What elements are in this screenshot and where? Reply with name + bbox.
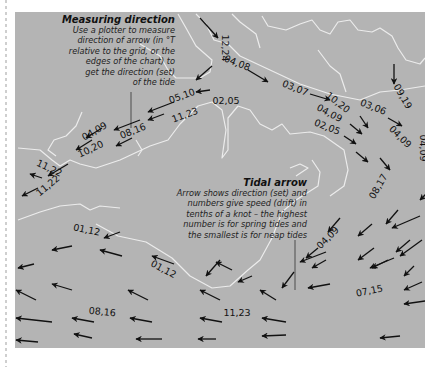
measuring-direction-title: Measuring direction — [35, 14, 175, 25]
tide-arrow — [380, 336, 400, 338]
tide-arrow — [312, 260, 326, 268]
tide-arrow — [248, 70, 268, 82]
tide-rate-label: 04,09 — [314, 224, 341, 251]
tide-rate-label: 04,09 — [387, 123, 414, 150]
tide-arrow — [308, 284, 330, 288]
tidal-arrow-note: Tidal arrow Arrow shows direction (set) … — [165, 177, 307, 240]
tide-rate-label: 04,09 — [418, 134, 425, 161]
tide-arrow — [356, 152, 368, 162]
tide-arrow — [360, 116, 368, 128]
tide-arrow — [260, 290, 276, 300]
tide-arrow — [16, 290, 36, 300]
tide-arrow — [16, 318, 52, 322]
tide-arrow — [130, 318, 152, 322]
tide-rate-label: 07,15 — [355, 282, 384, 298]
tide-rate-label: 08,16 — [88, 305, 116, 318]
tide-arrow — [282, 272, 294, 288]
tide-rate-label: 08,16 — [118, 121, 147, 141]
tide-rate-label: 01,12 — [149, 258, 178, 280]
tide-rate-label: 03,07 — [281, 78, 310, 98]
tide-rate-label: 09,19 — [391, 82, 414, 111]
tide-arrow — [372, 260, 388, 268]
tide-rate-label: 02,05 — [212, 95, 239, 106]
tide-arrow — [300, 252, 326, 262]
tidal-stream-chart: 12,2404,0803,0710,2004,0902,0503,0609,19… — [15, 12, 425, 348]
tide-arrow — [128, 290, 148, 300]
tide-arrow — [358, 224, 372, 236]
tide-arrow — [262, 335, 286, 336]
tidal-line-5: the smallest is for neap tides — [165, 230, 307, 240]
tide-rate-label: 11,23 — [223, 307, 250, 318]
tide-arrow — [200, 318, 222, 322]
tide-arrow — [404, 282, 422, 290]
tide-rate-label: 11,23 — [170, 105, 199, 125]
tide-arrow — [18, 264, 34, 268]
measuring-line-1: Use a plotter to measure — [35, 25, 175, 35]
tide-arrow — [148, 114, 164, 120]
measuring-line-3: relative to the grid, or the — [35, 46, 175, 56]
tide-arrow — [306, 248, 318, 258]
tide-arrow — [350, 124, 362, 134]
tide-arrow — [196, 90, 210, 92]
tidal-line-3: tenths of a knot – the highest — [165, 209, 307, 219]
tidal-arrow-title: Tidal arrow — [165, 177, 307, 188]
page-margin-dots — [5, 0, 7, 367]
tide-arrow — [100, 250, 122, 256]
tide-arrow — [400, 240, 422, 256]
measuring-line-4: edges of the chart) to — [35, 56, 175, 66]
tide-arrow — [420, 190, 425, 200]
tide-arrow — [380, 158, 390, 170]
tide-rate-label: 03,06 — [359, 97, 388, 117]
tide-arrow — [392, 216, 420, 228]
measuring-line-5: get the direction (set) — [35, 67, 175, 77]
tide-arrow — [358, 248, 374, 260]
tide-arrow — [74, 334, 92, 338]
tide-arrow — [344, 136, 356, 144]
tide-arrow — [386, 210, 398, 224]
measuring-direction-note: Measuring direction Use a plotter to mea… — [35, 14, 175, 87]
tidal-line-2: numbers give speed (drift) in — [165, 198, 307, 208]
tide-rate-label: 04,08 — [223, 53, 252, 73]
tide-rate-label: 05,10 — [167, 86, 196, 106]
tide-arrow — [200, 18, 218, 38]
tide-arrow — [404, 300, 425, 304]
tide-rate-label: 08,17 — [366, 172, 389, 201]
tide-arrow — [200, 290, 220, 300]
tide-arrow — [30, 174, 42, 178]
tide-arrow — [16, 340, 38, 342]
tide-rate-label: 04,09 — [80, 119, 109, 142]
tide-arrow — [262, 318, 286, 322]
measuring-line-6: of the tide — [35, 77, 175, 87]
tide-arrow — [196, 66, 212, 80]
tide-arrow — [52, 284, 72, 290]
tide-arrow — [216, 262, 232, 270]
tide-arrow — [72, 318, 94, 322]
measuring-line-2: direction of arrow (in °T — [35, 35, 175, 45]
tidal-line-4: number is for spring tides and — [165, 219, 307, 229]
tide-arrow — [404, 266, 414, 276]
tide-arrow — [52, 246, 72, 250]
tidal-line-1: Arrow shows direction (set) and — [165, 188, 307, 198]
tide-arrow — [206, 260, 220, 276]
